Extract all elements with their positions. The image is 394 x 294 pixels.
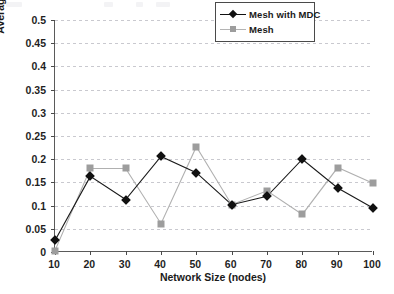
x-axis-tick bbox=[55, 251, 56, 255]
x-axis-title: Network Size (nodes) bbox=[54, 271, 372, 283]
y-axis-tick-label: 0.45 bbox=[6, 38, 46, 48]
series-lines bbox=[55, 20, 372, 251]
x-axis-tick-label: 90 bbox=[317, 259, 357, 269]
legend-item-mesh-with-mdc: Mesh with MDC bbox=[220, 7, 309, 22]
legend-label-mesh: Mesh bbox=[249, 24, 274, 35]
y-axis-tick-label: 0.3 bbox=[6, 108, 46, 118]
x-axis-tick-label: 50 bbox=[175, 259, 215, 269]
chart-legend: Mesh with MDC Mesh bbox=[215, 2, 315, 42]
x-axis-tick-label: 30 bbox=[105, 259, 145, 269]
x-axis-tick-label: 40 bbox=[140, 259, 180, 269]
x-axis-tick bbox=[267, 251, 268, 255]
legend-marker-diamond-icon bbox=[220, 9, 246, 20]
legend-marker-square-icon bbox=[220, 24, 246, 35]
scan-artifact bbox=[136, 2, 143, 7]
chart-figure: 0.50.450.40.350.30.250.20.150.10.050 102… bbox=[0, 0, 394, 294]
y-axis-tick-label: 0 bbox=[6, 247, 46, 257]
x-axis-tick-label: 100 bbox=[352, 259, 392, 269]
x-axis-tick bbox=[161, 251, 162, 255]
plot-area bbox=[54, 20, 372, 252]
x-axis-tick-label: 20 bbox=[69, 259, 109, 269]
y-axis-tick-label: 0.05 bbox=[6, 224, 46, 234]
x-axis-tick-label: 80 bbox=[281, 259, 321, 269]
scan-artifact bbox=[104, 2, 113, 7]
scan-artifact bbox=[6, 2, 22, 7]
x-axis-tick bbox=[232, 251, 233, 255]
x-axis-tick bbox=[338, 251, 339, 255]
y-axis-tick-label: 0.2 bbox=[6, 154, 46, 164]
y-axis-tick-label: 0.35 bbox=[6, 85, 46, 95]
y-axis-tick-label: 0.4 bbox=[6, 61, 46, 71]
legend-item-mesh: Mesh bbox=[220, 22, 309, 37]
legend-label-mesh-with-mdc: Mesh with MDC bbox=[249, 9, 321, 20]
y-axis-tick-label: 0.15 bbox=[6, 177, 46, 187]
y-axis-tick-label: 0.1 bbox=[6, 201, 46, 211]
series-line-mesh bbox=[55, 147, 373, 251]
x-axis-tick bbox=[126, 251, 127, 255]
x-axis-tick bbox=[373, 251, 374, 255]
scan-artifact bbox=[156, 2, 170, 7]
x-axis-tick bbox=[302, 251, 303, 255]
x-axis-tick bbox=[196, 251, 197, 255]
x-axis-tick-label: 60 bbox=[211, 259, 251, 269]
x-axis-tick-label: 10 bbox=[34, 259, 74, 269]
y-axis-title: Average end-to-end delay ( s ) bbox=[0, 0, 6, 52]
y-axis-tick-label: 0.5 bbox=[6, 15, 46, 25]
y-axis-tick-label: 0.25 bbox=[6, 131, 46, 141]
x-axis-tick bbox=[90, 251, 91, 255]
x-axis-tick-label: 70 bbox=[246, 259, 286, 269]
